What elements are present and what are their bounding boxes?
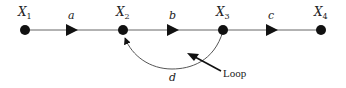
node-dot-icon bbox=[218, 25, 228, 35]
node-x1: X1 bbox=[17, 5, 32, 35]
edge-label-a: a bbox=[68, 9, 75, 22]
loop-annotation: Loop bbox=[187, 53, 247, 79]
edge-c: c bbox=[223, 9, 321, 36]
node-dot-icon bbox=[118, 25, 128, 35]
loop-pointer-arrow-icon bbox=[187, 53, 199, 61]
loop-label: Loop bbox=[223, 67, 247, 79]
node-label-x1: X1 bbox=[17, 5, 32, 21]
edge-label-d: d bbox=[169, 71, 176, 84]
arrowhead-b-icon bbox=[167, 24, 179, 36]
node-label-x2: X2 bbox=[115, 5, 130, 21]
edge-d-loop: d bbox=[125, 31, 223, 84]
node-dot-icon bbox=[20, 25, 30, 35]
node-dot-icon bbox=[316, 25, 326, 35]
edge-label-c: c bbox=[268, 9, 274, 22]
arrowhead-a-icon bbox=[66, 24, 78, 36]
signal-flow-graph: a b c d Loop X1 X2 X3 X4 bbox=[0, 0, 346, 88]
edge-label-b: b bbox=[169, 9, 176, 22]
edge-b: b bbox=[123, 9, 223, 36]
arrowhead-c-icon bbox=[266, 24, 278, 36]
node-label-x4: X4 bbox=[313, 5, 328, 21]
edge-a: a bbox=[25, 9, 123, 36]
node-label-x3: X3 bbox=[215, 5, 230, 21]
